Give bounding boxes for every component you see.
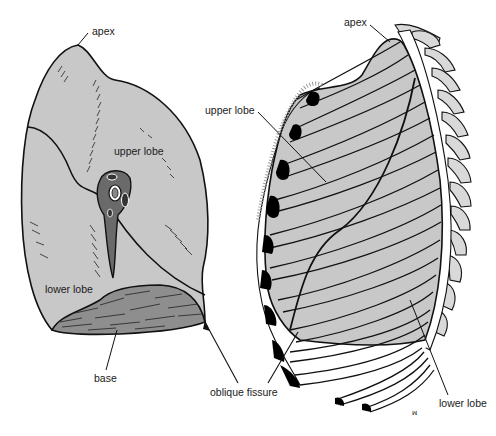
fissure-arrow-left [206,324,238,383]
apex-leader-left [78,33,88,45]
right-apex-label: apex [344,17,367,28]
right-upper-lobe-label: upper lobe [205,105,255,116]
right-lower-lobe-label: lower lobe [439,398,487,409]
diagram-artwork: ꟽ [0,0,496,436]
base-label: base [94,373,117,384]
left-lower-lobe-label: lower lobe [45,284,93,295]
base-leader [106,330,117,370]
right-lung: ꟽ [203,24,471,416]
lung-diagram: ꟽ apex upper lobe lower lobe base apex u… [0,0,496,436]
left-lung [22,33,208,370]
left-upper-lobe-label: upper lobe [114,146,164,157]
apex-leader-right [370,25,390,42]
oblique-fissure-label: oblique fissure [210,387,278,398]
left-apex-label: apex [92,26,115,37]
svg-text:ꟽ: ꟽ [412,410,417,416]
